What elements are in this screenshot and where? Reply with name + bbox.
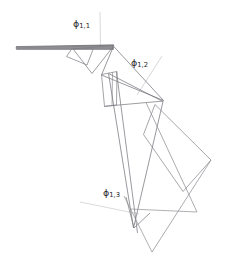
link-4-frame (144, 105, 212, 192)
link-3-spine (117, 72, 138, 233)
link-2-body (102, 46, 164, 100)
bottom-cross-right (130, 209, 197, 212)
strut-upper (146, 103, 197, 213)
phi-1-3-subscript: 1,3 (109, 191, 120, 199)
link-4-parallelogram (144, 105, 212, 192)
strut-lower (152, 160, 211, 252)
bottom-crossing-lines (124, 196, 197, 252)
link-4-struts (146, 103, 211, 253)
bottom-cross-down (124, 196, 152, 252)
angle-label-phi-1-1: ϕ1,1 (73, 19, 90, 30)
link-2-long-triangle (102, 46, 164, 100)
joint-1-quad (67, 48, 94, 65)
figure-canvas: ϕ1,1 ϕ1,2 ϕ1,3 (0, 0, 243, 273)
angle-label-phi-1-3: ϕ1,3 (103, 188, 120, 199)
angle-label-phi-1-2: ϕ1,2 (131, 58, 148, 69)
joint-1-frame (67, 48, 94, 65)
phi-1-2-subscript: 1,2 (137, 61, 148, 69)
line-drawing (0, 0, 243, 273)
vertical-reference-line (100, 12, 101, 48)
joint-2-inner-edge (112, 72, 113, 105)
reference-line-group (80, 12, 162, 214)
link-1-beam (16, 45, 114, 50)
phi-1-1-subscript: 1,1 (79, 22, 90, 30)
